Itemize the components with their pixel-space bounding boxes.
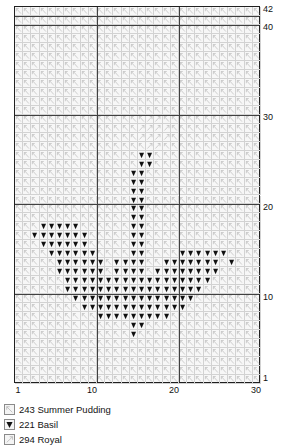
chart-cell [56,124,64,133]
chart-cell [31,375,39,384]
chart-cell [245,25,253,34]
chart-cell [15,339,23,348]
chart-cell [228,276,236,285]
chart-cell [228,142,236,151]
legend-item[interactable]: 243 Summer Pudding [4,402,279,417]
chart-cell [253,70,261,79]
chart-cell [228,321,236,330]
chart-cell [253,43,261,52]
chart-cell [179,70,187,79]
chart-cell [236,285,244,294]
chart-cell [15,88,23,97]
legend-item[interactable]: 294 Royal [4,432,279,447]
chart-cell [15,34,23,43]
chart-cell [97,276,105,285]
chart-cell [15,151,23,160]
chart-cell [23,16,31,25]
chart-cell [15,124,23,133]
chart-cell [163,97,171,106]
chart-cell [81,25,89,34]
chart-cell [179,348,187,357]
chart-cell [220,285,228,294]
chart-cell [236,321,244,330]
chart-cell [122,196,130,205]
chart-cell [171,34,179,43]
chart-cell [236,88,244,97]
chart-cell [245,52,253,61]
chart-cell [48,231,56,240]
chart-cell [89,258,97,267]
chart-cell [187,160,195,169]
y-axis-tick: 20 [263,203,273,212]
chart-cell [195,339,203,348]
chart-cell [122,294,130,303]
x-axis-tick: 1 [16,386,21,395]
chart-cell [72,151,80,160]
chart-cell [48,79,56,88]
chart-cell [56,312,64,321]
heavy-row-line [15,204,259,205]
chart-cell [228,249,236,258]
chart-cell [122,52,130,61]
chart-cell [154,34,162,43]
chart-cell [64,115,72,124]
chart-cell [146,204,154,213]
chart-cell [72,7,80,16]
chart-cell [72,142,80,151]
chart-cell [163,178,171,187]
chart-cell [15,249,23,258]
chart-cell [97,231,105,240]
chart-cell [245,312,253,321]
chart-cell [40,7,48,16]
chart-cell [138,294,146,303]
chart-cell [187,43,195,52]
chart-cell [122,124,130,133]
chart-cell [228,160,236,169]
chart-cell [23,169,31,178]
chart-cell [154,79,162,88]
chart-cell [56,7,64,16]
chart-cell [138,249,146,258]
chart-cell [89,267,97,276]
chart-cell [105,231,113,240]
chart-cell [15,142,23,151]
chart-cell [204,366,212,375]
chart-cell [105,133,113,142]
chart-cell [228,312,236,321]
chart-cell [122,231,130,240]
chart-cell [72,160,80,169]
chart-cell [31,321,39,330]
chart-cell [212,160,220,169]
chart-cell [31,151,39,160]
chart-cell [253,187,261,196]
chart-cell [163,88,171,97]
chart-cell [64,285,72,294]
chart-cell [204,52,212,61]
chart-cell [146,106,154,115]
chart-cell [15,79,23,88]
chart-cell [154,312,162,321]
chart-cell [130,196,138,205]
chart-cell [15,348,23,357]
chart-cell [97,240,105,249]
chart-cell [97,303,105,312]
chart-cell [146,16,154,25]
chart-cell [171,124,179,133]
chart-cell [146,348,154,357]
chart-cell [72,61,80,70]
chart-cell [105,357,113,366]
chart-cell [195,303,203,312]
chart-cell [122,258,130,267]
legend-item[interactable]: 221 Basil [4,417,279,432]
chart-cell [171,70,179,79]
chart-cell [163,169,171,178]
chart-cell [97,249,105,258]
chart-cell [212,312,220,321]
chart-cell [236,222,244,231]
chart-cell [122,142,130,151]
chart-cell [212,16,220,25]
chart-cell [220,79,228,88]
chart-cell [253,124,261,133]
chart-cell [228,339,236,348]
chart-cell [163,366,171,375]
